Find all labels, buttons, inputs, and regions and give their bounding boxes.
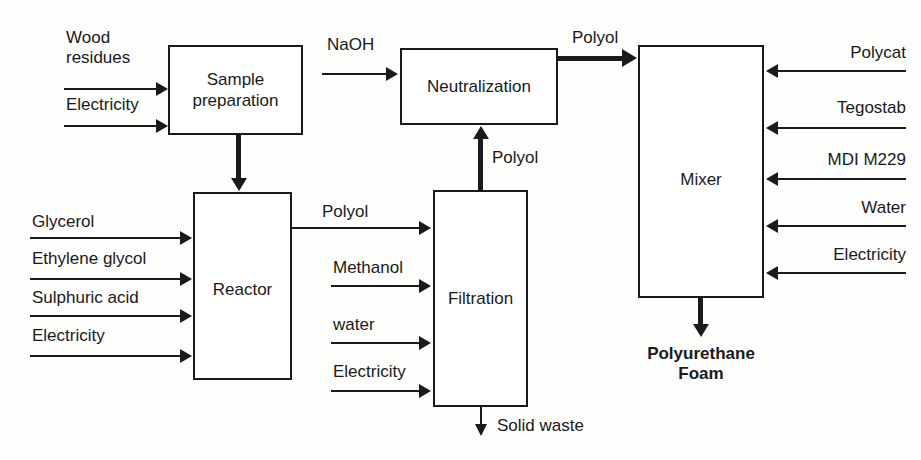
input-arrow-tegostab xyxy=(778,127,906,129)
arrowhead-left-icon xyxy=(766,121,778,135)
stream-arrow-polyol-to-neutralization xyxy=(478,138,483,190)
input-arrow-electricity-reactor xyxy=(30,355,182,357)
input-label-mdi-m229: MDI M229 xyxy=(786,150,906,170)
unit-label-mixer: Mixer xyxy=(680,169,722,190)
input-label-electricity-reactor: Electricity xyxy=(32,326,105,346)
input-arrow-mdi-m229 xyxy=(778,178,906,180)
arrowhead-up-icon xyxy=(473,126,489,139)
input-label-ethylene-glycol: Ethylene glycol xyxy=(32,249,146,269)
stream-arrow-naoh xyxy=(322,73,388,75)
input-label-wood-residues: Wood residues xyxy=(66,28,130,67)
unit-neutralization[interactable]: Neutralization xyxy=(400,48,558,125)
unit-reactor[interactable]: Reactor xyxy=(193,192,292,380)
stream-label-polyol-to-neutralization: Polyol xyxy=(492,148,538,168)
input-arrow-electricity-filtration xyxy=(331,390,421,392)
output-label-solid-waste: Solid waste xyxy=(497,416,584,436)
input-arrow-glycerol xyxy=(30,237,182,239)
arrowhead-right-icon xyxy=(180,309,192,323)
arrowhead-right-icon xyxy=(180,272,192,286)
arrowhead-down-icon xyxy=(693,324,709,337)
arrowhead-left-icon xyxy=(766,64,778,78)
arrowhead-left-icon xyxy=(766,219,778,233)
input-arrow-ethylene-glycol xyxy=(30,278,182,280)
input-label-electricity-filtration: Electricity xyxy=(333,362,406,382)
arrowhead-right-icon xyxy=(419,336,431,350)
arrowhead-left-icon xyxy=(766,172,778,186)
output-label-polyurethane-foam: Polyurethane Foam xyxy=(636,344,766,383)
input-arrow-polycat xyxy=(778,70,906,72)
input-arrow-electricity-mixer xyxy=(778,272,906,274)
arrowhead-right-icon xyxy=(419,384,431,398)
input-arrow-water-mixer xyxy=(778,225,906,227)
input-label-water-filtration: water xyxy=(333,315,375,335)
stream-arrow-polyol-to-filtration xyxy=(291,227,421,229)
input-arrow-sulphuric-acid xyxy=(30,315,182,317)
stream-label-polyol-to-filtration: Polyol xyxy=(322,202,368,222)
unit-mixer[interactable]: Mixer xyxy=(638,45,764,298)
unit-sample-preparation[interactable]: Sample preparation xyxy=(168,45,303,135)
arrowhead-left-icon xyxy=(766,266,778,280)
unit-label-filtration: Filtration xyxy=(448,288,513,309)
stream-arrow-polyol-to-mixer xyxy=(556,56,624,61)
input-arrow-water-filtration xyxy=(331,342,421,344)
arrowhead-down-icon xyxy=(231,178,247,191)
input-label-sulphuric-acid: Sulphuric acid xyxy=(32,288,139,308)
output-arrow-polyurethane-foam xyxy=(698,297,703,327)
arrowhead-right-icon xyxy=(419,221,431,235)
unit-label-reactor: Reactor xyxy=(213,279,273,300)
input-label-water-mixer: Water xyxy=(786,198,906,218)
input-arrow-electricity-sample-prep xyxy=(64,125,158,127)
arrowhead-right-icon xyxy=(386,67,398,81)
process-flow-diagram: Sample preparation Neutralization Mixer … xyxy=(0,0,921,460)
unit-label-neutralization: Neutralization xyxy=(427,76,531,97)
input-label-glycerol: Glycerol xyxy=(32,212,94,232)
input-arrow-wood-residues xyxy=(64,88,158,90)
unit-filtration[interactable]: Filtration xyxy=(433,190,528,407)
unit-label-sample-preparation: Sample preparation xyxy=(170,69,301,112)
arrowhead-right-icon xyxy=(156,82,168,96)
input-arrow-methanol xyxy=(331,285,421,287)
arrowhead-right-icon xyxy=(419,279,431,293)
arrowhead-right-icon xyxy=(180,231,192,245)
input-label-polycat: Polycat xyxy=(786,43,906,63)
arrowhead-right-icon xyxy=(180,349,192,363)
arrowhead-right-icon xyxy=(156,119,168,133)
input-label-methanol: Methanol xyxy=(333,258,403,278)
stream-label-naoh: NaOH xyxy=(327,35,374,55)
input-label-electricity-mixer: Electricity xyxy=(786,245,906,265)
stream-arrow-sampleprep-to-reactor xyxy=(236,135,241,180)
arrowhead-right-icon xyxy=(622,49,637,67)
stream-label-polyol-to-mixer: Polyol xyxy=(572,28,618,48)
input-label-electricity-sample-prep: Electricity xyxy=(66,95,139,115)
arrowhead-down-icon xyxy=(475,424,487,436)
input-label-tegostab: Tegostab xyxy=(786,98,906,118)
